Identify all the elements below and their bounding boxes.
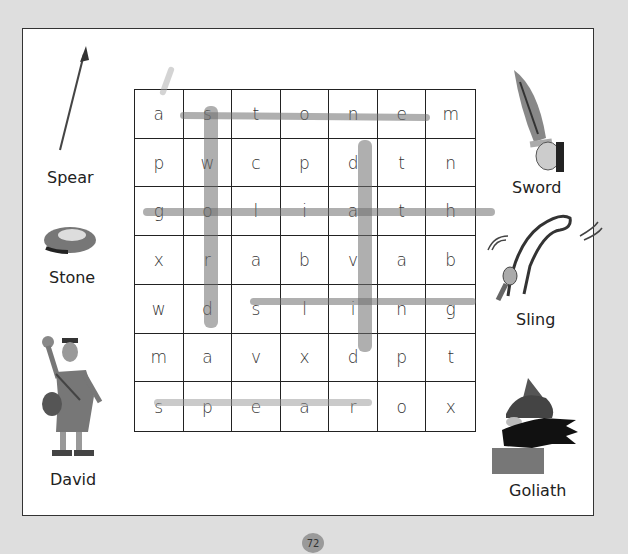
grid-cell[interactable]: e [232,382,281,431]
grid-cell[interactable]: s [232,285,281,334]
sling-icon [484,206,604,302]
grid-cell[interactable]: v [232,334,281,383]
grid-cell[interactable]: w [184,139,233,188]
grid-cell[interactable]: t [378,187,427,236]
word-search-grid: astonempwcpdtngoliathxrabvabwdslingmavxd… [134,89,476,432]
grid-cell[interactable]: t [378,139,427,188]
grid-cell[interactable]: s [135,382,184,431]
grid-cell[interactable]: a [281,382,330,431]
grid-cell[interactable]: o [184,187,233,236]
grid-cell[interactable]: e [378,90,427,139]
grid-cell[interactable]: n [329,90,378,139]
grid-cell[interactable]: b [426,236,475,285]
grid-cell[interactable]: p [135,139,184,188]
spear-icon [56,44,92,154]
grid-cell[interactable]: a [378,236,427,285]
grid-cell[interactable]: h [426,187,475,236]
grid-cell[interactable]: x [281,334,330,383]
grid-cell[interactable]: p [378,334,427,383]
grid-cell[interactable]: i [281,187,330,236]
grid-cell[interactable]: o [281,90,330,139]
grid-cell[interactable]: b [281,236,330,285]
grid-cell[interactable]: n [378,285,427,334]
grid-cell[interactable]: a [232,236,281,285]
grid-cell[interactable]: s [184,90,233,139]
grid-cell[interactable]: i [329,285,378,334]
grid-cell[interactable]: w [135,285,184,334]
grid-cell[interactable]: l [281,285,330,334]
grid-cell[interactable]: d [184,285,233,334]
david-icon [36,332,112,462]
sling-label: Sling [516,310,555,329]
grid-cell[interactable]: p [281,139,330,188]
grid-cell[interactable]: x [135,236,184,285]
stone-label: Stone [49,268,95,287]
goliath-icon [492,378,584,474]
grid-cell[interactable]: c [232,139,281,188]
grid-cell[interactable]: d [329,139,378,188]
spear-label: Spear [47,168,94,187]
grid-cell[interactable]: a [184,334,233,383]
grid-cell[interactable]: r [184,236,233,285]
grid-cell[interactable]: v [329,236,378,285]
grid-cell[interactable]: g [135,187,184,236]
grid-cell[interactable]: x [426,382,475,431]
grid-cell[interactable]: d [329,334,378,383]
grid-cell[interactable]: a [329,187,378,236]
grid-cell[interactable]: a [135,90,184,139]
grid-cell[interactable]: l [232,187,281,236]
grid-cell[interactable]: r [329,382,378,431]
sword-icon [508,68,568,176]
grid-cell[interactable]: p [184,382,233,431]
grid-cell[interactable]: m [135,334,184,383]
david-label: David [50,470,96,489]
grid-cell[interactable]: m [426,90,475,139]
grid-cell[interactable]: g [426,285,475,334]
grid-cell[interactable]: t [232,90,281,139]
goliath-label: Goliath [509,481,566,500]
grid-cell[interactable]: o [378,382,427,431]
page-number: 72 [302,533,324,553]
grid-cell[interactable]: n [426,139,475,188]
grid-cell[interactable]: t [426,334,475,383]
sword-label: Sword [512,178,561,197]
stone-icon [42,222,98,256]
